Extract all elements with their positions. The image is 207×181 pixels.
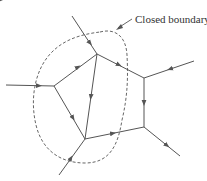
closed-boundary bbox=[33, 31, 127, 163]
edge-p3-d bbox=[144, 61, 194, 78]
edge-a-d bbox=[97, 54, 144, 78]
edge-p2-b bbox=[6, 85, 54, 86]
network-diagram bbox=[0, 0, 207, 181]
closed-boundary-label: Closed boundary bbox=[135, 13, 207, 25]
edge-b-c bbox=[54, 86, 85, 139]
edges bbox=[6, 16, 194, 175]
edge-p1-a bbox=[72, 16, 97, 54]
edge-c-e bbox=[85, 127, 144, 139]
edge-b-a bbox=[54, 54, 97, 86]
edge-p5-c bbox=[59, 139, 85, 175]
